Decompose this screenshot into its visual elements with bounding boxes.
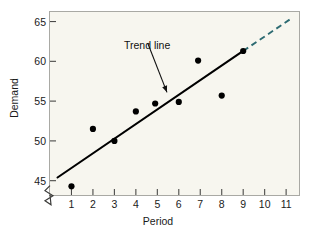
chart-figure: 45 50 55 60 65 1 2 3 4 5 6 7 8 9 10 11 T…: [0, 0, 316, 239]
data-point: [219, 92, 225, 98]
data-point: [111, 138, 117, 144]
y-axis-title: Demand: [8, 60, 20, 136]
data-point: [90, 126, 96, 132]
y-tick-marks: [50, 22, 56, 181]
annotation-arrowhead: [162, 85, 167, 92]
y-axis-break-icon: [45, 186, 53, 205]
data-point: [176, 99, 182, 105]
trend-line-extension: [243, 18, 291, 51]
data-point: [152, 100, 158, 106]
trend-line: [58, 51, 244, 178]
plot-graphics: [0, 0, 316, 239]
x-tick-marks: [71, 189, 286, 195]
trend-line-annotation-label: Trend line: [124, 39, 170, 51]
data-point: [240, 48, 246, 54]
data-point: [195, 57, 201, 63]
data-point: [68, 183, 74, 189]
data-point: [133, 108, 139, 114]
x-axis-title: Period: [0, 215, 316, 227]
